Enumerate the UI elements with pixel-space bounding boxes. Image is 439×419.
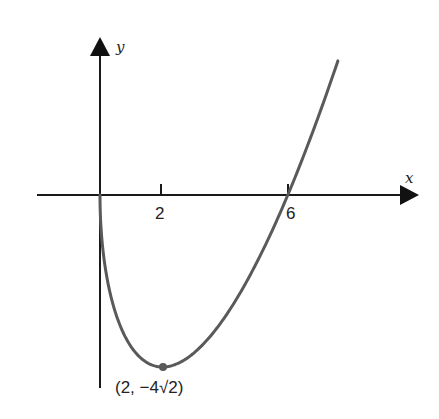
y-axis-arrow-icon	[90, 37, 110, 56]
x-axis-arrow-icon	[400, 185, 419, 205]
x-tick-label-6: 6	[286, 204, 295, 223]
x-tick-label-2: 2	[155, 204, 164, 223]
minimum-point-label: (2, −4√2)	[115, 378, 183, 397]
x-axis-label: x	[405, 169, 414, 187]
minimum-point-marker	[159, 363, 167, 371]
function-graph: x y 2 6 (2, −4√2)	[0, 0, 439, 419]
y-axis-label: y	[115, 38, 125, 56]
function-curve	[100, 61, 338, 367]
